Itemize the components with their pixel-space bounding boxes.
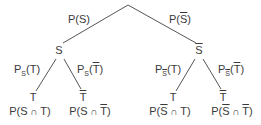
leaf-p-s-and-tbar: P(S ∩ T) — [69, 105, 111, 118]
node-sbar: S — [195, 44, 202, 56]
leaf-p-s-and-t: P(S ∩ T) — [9, 105, 51, 118]
edge-label-p-sbar: P(S) — [169, 13, 191, 25]
node-sbar-tbar: T — [220, 91, 227, 103]
edge-label-psbar-tbar: PS(T) — [218, 63, 244, 77]
probability-tree-diagram: P(S) P(S) S S PS(T) PS(T) PS(T) PS(T) T … — [0, 0, 261, 125]
edge-label-p-s: P(S) — [68, 13, 90, 25]
node-s-t: T — [30, 91, 37, 103]
node-sbar-t: T — [170, 91, 177, 103]
leaf-p-sbar-and-t: P(S ∩ T) — [149, 105, 191, 118]
node-s: S — [55, 44, 62, 56]
leaf-p-sbar-and-tbar: P(S ∩ T) — [211, 105, 253, 118]
edge-label-psbar-t: PS(T) — [155, 63, 181, 77]
edge-label-ps-tbar: PS(T) — [77, 63, 103, 77]
edge-label-ps-t: PS(T) — [14, 63, 40, 77]
node-s-tbar: T — [80, 91, 87, 103]
